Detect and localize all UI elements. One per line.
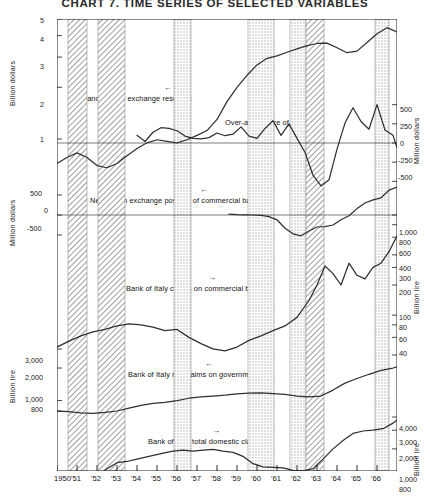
ytick-boiclaims-800: 800 xyxy=(399,238,411,247)
x-axis-label-51: '51 xyxy=(71,474,81,483)
plot-area xyxy=(57,19,397,471)
axis-title-panel-balance: Million dollars xyxy=(412,108,421,174)
x-axis-label-59: '59 xyxy=(231,474,241,483)
shaded-band xyxy=(248,19,274,471)
ytick-balance-250: 250 xyxy=(400,122,412,131)
ytick-balance-neg500: -500 xyxy=(398,173,412,182)
chart-svg xyxy=(57,19,397,471)
ytick-reserves-4: 4 xyxy=(40,35,44,44)
ytick-domestic-3000: 3,000 xyxy=(399,438,417,447)
x-axis-label-55: '55 xyxy=(151,474,161,483)
ytick-boiclaims-200: 200 xyxy=(399,288,411,297)
ytick-boiclaims-1000: 1,000 xyxy=(399,228,417,237)
x-axis-label-52: '52 xyxy=(91,474,101,483)
ytick-domestic-2000: 2,000 xyxy=(399,454,417,463)
x-axis-label-66: '66 xyxy=(371,474,381,483)
ytick-netfx-neg500: -500 xyxy=(27,224,41,233)
x-axis-label-62: '62 xyxy=(291,474,301,483)
chart-page: CHART 7. TIME SERIES OF SELECTED VARIABL… xyxy=(0,0,430,497)
x-axis-label-57: '57 xyxy=(191,474,201,483)
axis-title-panel-reserves: Billion dollars xyxy=(8,35,17,131)
ytick-boiclaims-300: 300 xyxy=(399,274,411,283)
x-axis-label-61: '61 xyxy=(271,474,281,483)
ytick-reserves-1: 1 xyxy=(40,135,44,144)
shaded-band xyxy=(174,19,191,471)
ytick-boiclaims-40: 40 xyxy=(399,349,407,358)
ytick-boiclaims-80: 80 xyxy=(399,323,407,332)
ytick-balance-0: 0 xyxy=(400,139,404,148)
ytick-netfx-500: 500 xyxy=(30,189,42,198)
ytick-domestic-4000: 4,000 xyxy=(399,424,417,433)
shaded-band xyxy=(68,19,87,471)
axis-title-panel-boiclaims: Billion lire xyxy=(412,268,421,326)
ytick-netfx-0: 0 xyxy=(44,206,48,215)
shaded-band xyxy=(98,19,125,471)
ytick-domestic-800: 800 xyxy=(399,485,411,494)
x-axis-label-65: '65 xyxy=(351,474,361,483)
x-axis-label-58: '58 xyxy=(211,474,221,483)
x-axis-label-64: '64 xyxy=(331,474,341,483)
shaded-band xyxy=(306,19,324,471)
x-axis-label-56: '56 xyxy=(171,474,181,483)
x-axis-label-53: '53 xyxy=(111,474,121,483)
ytick-domestic-1000: 1,000 xyxy=(399,475,417,484)
chart-title: CHART 7. TIME SERIES OF SELECTED VARIABL… xyxy=(0,0,430,9)
x-axis-label-54: '54 xyxy=(131,474,141,483)
ytick-govt-3000: 3,000 xyxy=(25,356,43,365)
axis-title-panel-netfx: Million dollars xyxy=(8,185,17,261)
x-axis-label-60: '60 xyxy=(251,474,261,483)
ytick-boiclaims-600: 600 xyxy=(399,249,411,258)
ytick-balance-500: 500 xyxy=(400,105,412,114)
x-axis-label-63: '63 xyxy=(311,474,321,483)
axis-title-panel-govt: Billion lire xyxy=(8,355,17,417)
shaded-band xyxy=(290,19,306,471)
shaded-band xyxy=(375,19,389,471)
ytick-boiclaims-100: 100 xyxy=(399,313,411,322)
ytick-boiclaims-400: 400 xyxy=(399,264,411,273)
ytick-balance-neg250: -250 xyxy=(398,156,412,165)
ytick-reserves-3: 3 xyxy=(40,62,44,71)
ytick-reserves-2: 2 xyxy=(40,100,44,109)
ytick-govt-800: 800 xyxy=(31,405,43,414)
shaded-recession-bands xyxy=(68,19,389,471)
ytick-boiclaims-60: 60 xyxy=(399,335,407,344)
x-axis-label-1950: 1950 xyxy=(54,474,71,483)
ytick-govt-1000: 1,000 xyxy=(25,395,43,404)
ytick-reserves-5: 5 xyxy=(40,16,44,25)
ytick-govt-2000: 2,000 xyxy=(25,373,43,382)
